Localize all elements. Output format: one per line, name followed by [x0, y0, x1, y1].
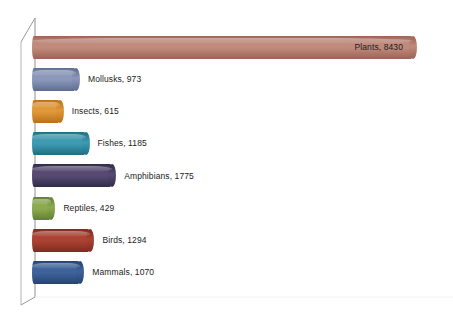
bar-row: Fishes, 1185: [32, 131, 147, 157]
bar-row: Birds, 1294: [32, 227, 147, 253]
bar-data-label: Birds, 1294: [102, 236, 146, 245]
bar-chart: Plants, 8430Mollusks, 973Insects, 615Fis…: [0, 0, 453, 324]
bar-data-label: Insects, 615: [72, 107, 119, 116]
bar-data-label: Reptiles, 429: [63, 204, 114, 213]
bar-fishes[interactable]: [32, 132, 86, 155]
bar-data-label: Plants, 8430: [355, 43, 403, 52]
bar-row: Mollusks, 973: [32, 66, 141, 92]
bar-end-cap: [108, 164, 116, 187]
plot-area: Plants, 8430Mollusks, 973Insects, 615Fis…: [0, 0, 453, 324]
bar-data-label: Mammals, 1070: [92, 268, 154, 277]
bar-body: [32, 164, 112, 187]
bar-row: Insects, 615: [32, 98, 119, 124]
bar-end-cap: [72, 68, 80, 91]
bar-reptiles[interactable]: [32, 197, 51, 220]
bar-end-cap: [47, 197, 55, 220]
bar-row: Amphibians, 1775: [32, 163, 194, 189]
bar-body: [32, 229, 90, 252]
bar-body: [32, 132, 86, 155]
bar-end-cap: [56, 100, 64, 123]
bar-end-cap: [82, 132, 90, 155]
bar-row: Mammals, 1070: [32, 259, 154, 285]
bar-data-label: Amphibians, 1775: [124, 172, 194, 181]
bar-birds[interactable]: [32, 229, 90, 252]
bar-plants[interactable]: Plants, 8430: [32, 36, 413, 59]
bar-data-label: Fishes, 1185: [98, 139, 147, 148]
bar-amphibians[interactable]: [32, 164, 112, 187]
bar-mammals[interactable]: [32, 261, 80, 284]
bar-body: [32, 261, 80, 284]
bar-mollusks[interactable]: [32, 68, 76, 91]
bar-row: Plants, 8430: [32, 34, 413, 60]
bar-row: Reptiles, 429: [32, 195, 114, 221]
bar-body: [32, 68, 76, 91]
bar-end-cap: [76, 261, 84, 284]
bar-data-label: Mollusks, 973: [88, 75, 141, 84]
bar-end-cap: [86, 229, 94, 252]
bar-insects[interactable]: [32, 100, 60, 123]
bar-end-cap: [409, 36, 417, 59]
